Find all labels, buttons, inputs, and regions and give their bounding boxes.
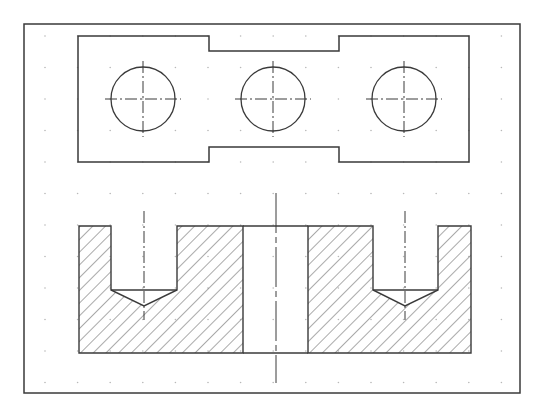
section-view <box>79 193 471 383</box>
technical-drawing <box>0 0 546 408</box>
